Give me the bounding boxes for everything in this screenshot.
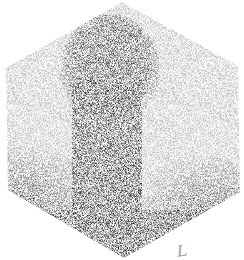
scintigraphy-image — [0, 0, 244, 260]
uptake-layer — [0, 0, 244, 260]
